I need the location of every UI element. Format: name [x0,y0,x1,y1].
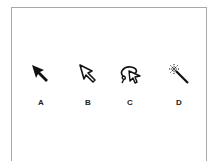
magic-wand-icon [167,62,191,86]
tool-c: C [115,62,145,110]
lasso-select-icon [118,62,142,86]
direct-selection-arrow-outline-icon [76,62,100,86]
tool-b: B [73,62,103,110]
tool-label: D [164,98,194,107]
tool-d: D [164,62,194,110]
tool-label: C [115,98,145,107]
tool-a: A [26,62,56,110]
selection-arrow-filled-icon [29,62,53,86]
tool-label: A [26,98,56,107]
tool-label: B [73,98,103,107]
